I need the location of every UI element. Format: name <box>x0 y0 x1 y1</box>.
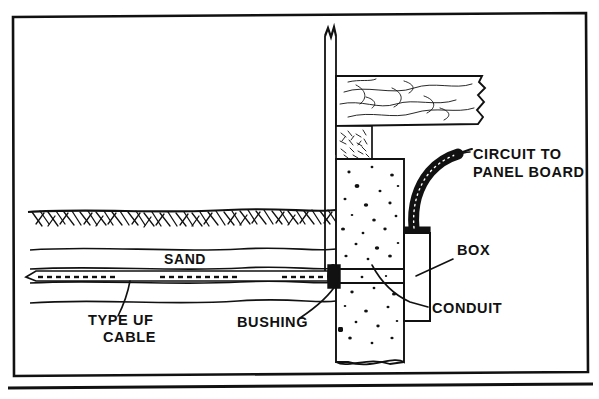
sill-plate-mortar <box>336 126 372 159</box>
cable-bushing <box>327 264 340 288</box>
figure-canvas: CIRCUIT TO PANEL BOARD BOX CONDUIT SAND … <box>0 0 599 399</box>
circuit-label-line2: PANEL BOARD <box>473 164 585 180</box>
label-box: BOX <box>457 242 490 258</box>
foundation-cable-entry-diagram: CIRCUIT TO PANEL BOARD BOX CONDUIT SAND … <box>0 0 599 399</box>
outlet-box <box>404 233 430 321</box>
label-sand: SAND <box>164 251 206 267</box>
wood-siding-board <box>336 76 485 126</box>
label-bushing: BUSHING <box>237 314 308 330</box>
cable-label-line2: CABLE <box>103 329 156 345</box>
circuit-label-line1: CIRCUIT TO <box>473 146 562 162</box>
concrete-foundation-wall <box>336 159 404 364</box>
cable-label-line1: TYPE UF <box>88 312 153 328</box>
label-conduit: CONDUIT <box>432 300 502 316</box>
figure-background <box>0 0 599 399</box>
type-uf-cable <box>26 271 330 281</box>
